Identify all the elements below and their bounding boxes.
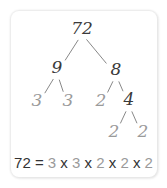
prime-factor-node: 3	[32, 90, 43, 110]
composite-node: 72	[71, 18, 93, 38]
equation-factor: 3	[48, 154, 56, 171]
prime-factor-node: 3	[63, 90, 74, 110]
composite-node: 4	[123, 89, 135, 109]
tree-edge	[45, 79, 54, 93]
equation-factor: 2	[145, 154, 153, 171]
prime-factor-node: 2	[95, 90, 107, 110]
equation-lhs: 72	[14, 154, 31, 171]
equation-operator: x	[109, 154, 117, 171]
equation-factor: 2	[96, 154, 104, 171]
composite-node: 9	[52, 57, 63, 77]
equation-operator: x	[133, 154, 141, 171]
composite-node: 8	[111, 59, 122, 79]
prime-factor-node: 2	[137, 121, 149, 141]
tree-edge	[132, 111, 137, 123]
tree-edge	[86, 39, 106, 63]
prime-factor-node: 2	[108, 121, 120, 141]
equation-factor: 3	[72, 154, 80, 171]
equation-factor: 2	[120, 154, 128, 171]
prime-factorization-equation: 72 = 3 x 3 x 2 x 2 x 2	[0, 154, 167, 171]
tree-edge	[120, 111, 126, 123]
equation-equals: =	[35, 154, 44, 171]
equation-operator: x	[60, 154, 68, 171]
tree-edge	[65, 40, 78, 60]
equation-operator: x	[85, 154, 93, 171]
tree-edge	[119, 81, 123, 91]
tree-edge	[108, 81, 113, 92]
